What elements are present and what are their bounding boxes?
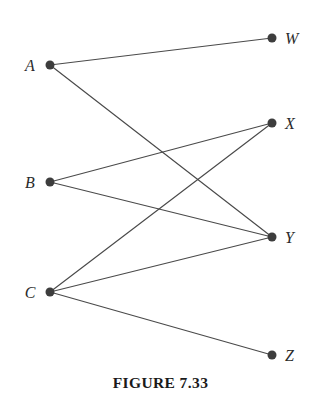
vertex-w xyxy=(268,34,277,43)
vertex-label-z: Z xyxy=(285,347,295,364)
edge-c-x xyxy=(50,123,272,292)
vertex-label-w: W xyxy=(285,30,300,47)
vertex-c xyxy=(46,288,55,297)
vertex-label-b: B xyxy=(25,174,35,191)
vertex-z xyxy=(268,351,277,360)
edge-b-x xyxy=(50,123,272,182)
edge-c-y xyxy=(50,237,272,292)
figure-container: ABCWXYZ FIGURE 7.33 xyxy=(0,0,321,415)
vertex-b xyxy=(46,178,55,187)
vertex-y xyxy=(268,233,277,242)
vertex-label-a: A xyxy=(24,57,35,74)
edges-group xyxy=(50,38,272,355)
vertices-group xyxy=(46,34,277,360)
vertex-labels-group: ABCWXYZ xyxy=(24,30,300,364)
vertex-label-c: C xyxy=(25,284,36,301)
edge-b-y xyxy=(50,182,272,237)
vertex-label-y: Y xyxy=(285,229,296,246)
vertex-x xyxy=(268,119,277,128)
vertex-a xyxy=(46,61,55,70)
edge-c-z xyxy=(50,292,272,355)
figure-caption: FIGURE 7.33 xyxy=(0,374,321,392)
bipartite-graph: ABCWXYZ xyxy=(0,0,321,415)
edge-a-w xyxy=(50,38,272,65)
edge-a-y xyxy=(50,65,272,237)
vertex-label-x: X xyxy=(284,115,296,132)
